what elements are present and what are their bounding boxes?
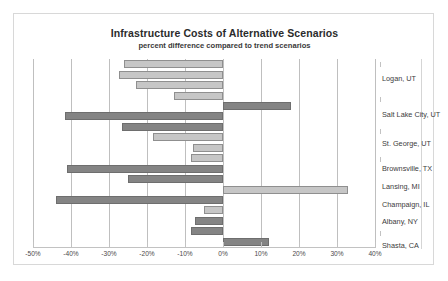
plot-area: [33, 59, 375, 247]
x-axis-tick: [185, 242, 186, 247]
chart-frame: Infrastructure Costs of Alternative Scen…: [13, 13, 434, 265]
bar: [67, 165, 223, 173]
bar: [191, 154, 223, 162]
gridline-20%: [299, 59, 300, 247]
bar: [124, 60, 223, 68]
bar: [153, 133, 223, 141]
category-axis-tick: [380, 62, 381, 67]
bar: [128, 175, 223, 183]
category-axis-tick: [380, 97, 381, 102]
gridline--50%: [33, 59, 34, 247]
x-axis-label: 0%: [218, 250, 228, 257]
category-axis-tick: [380, 231, 381, 236]
chart-title-block: Infrastructure Costs of Alternative Scen…: [14, 27, 435, 51]
gridline-10%: [261, 59, 262, 247]
category-label: Shasta, CA: [382, 241, 419, 250]
category-label: Lansing, MI: [382, 182, 420, 191]
category-axis-tick: [380, 129, 381, 134]
bar: [174, 92, 223, 100]
category-label: Salt Lake City, UT: [382, 110, 440, 119]
x-axis-label: -30%: [101, 250, 116, 257]
x-axis-tick: [299, 242, 300, 247]
x-axis-label: 10%: [254, 250, 267, 257]
bar: [65, 112, 223, 120]
x-axis-tick: [109, 242, 110, 247]
x-axis-label: -20%: [139, 250, 154, 257]
bar: [191, 227, 223, 235]
gridline-0%: [223, 59, 224, 247]
bar: [136, 81, 223, 89]
bar: [193, 144, 223, 152]
x-axis-tick: [147, 242, 148, 247]
bar: [223, 186, 348, 194]
x-axis-tick: [375, 242, 376, 247]
gridline-40%: [375, 59, 376, 247]
bar: [223, 102, 291, 110]
x-axis-label: 20%: [292, 250, 305, 257]
chart-subtitle: percent difference compared to trend sce…: [14, 40, 435, 51]
x-axis-label: -40%: [63, 250, 78, 257]
category-axis-labels: Logan, UTSalt Lake City, UTSt. George, U…: [382, 59, 448, 247]
x-axis-tick: [223, 242, 224, 247]
gridline--30%: [109, 59, 110, 247]
category-label: Brownsville, TX: [382, 164, 432, 173]
x-axis-label: 30%: [330, 250, 343, 257]
page-title: Infrastructure Costs of Alternative Scen…: [14, 27, 435, 40]
bar: [122, 123, 223, 131]
bar: [56, 196, 223, 204]
x-axis-tick: [261, 242, 262, 247]
x-axis-label: 40%: [368, 250, 381, 257]
gridline-30%: [337, 59, 338, 247]
x-axis-line: [33, 247, 376, 248]
category-axis-tick: [380, 157, 381, 162]
category-label: Logan, UT: [382, 74, 416, 83]
category-label: St. George, UT: [382, 139, 431, 148]
bar: [119, 71, 224, 79]
category-label: Albany, NY: [382, 217, 418, 226]
x-axis-label: -10%: [177, 250, 192, 257]
gridline--40%: [71, 59, 72, 247]
category-label: Champaign, IL: [382, 200, 429, 209]
bar: [195, 217, 224, 225]
x-axis-tick: [33, 242, 34, 247]
x-axis-tick: [337, 242, 338, 247]
x-axis-label: -50%: [25, 250, 40, 257]
x-axis-tick: [71, 242, 72, 247]
bar: [204, 206, 223, 214]
